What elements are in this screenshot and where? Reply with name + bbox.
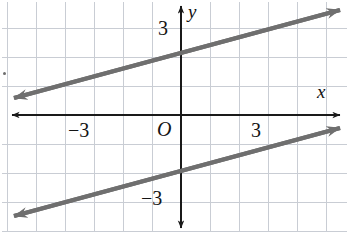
grid-lines <box>2 2 347 232</box>
y-tick-label-3: 3 <box>158 18 168 38</box>
x-tick-label-neg3: −3 <box>68 120 89 140</box>
x-tick-label-3: 3 <box>251 120 261 140</box>
coordinate-plane-svg <box>0 0 349 234</box>
line-upper <box>14 10 340 98</box>
line-lower <box>14 128 340 216</box>
origin-label: O <box>157 119 171 139</box>
margin-dot-mark <box>3 72 6 75</box>
y-axis-label: y <box>188 2 196 21</box>
graph-figure: x y 3 −3 −3 3 O <box>0 0 349 234</box>
y-tick-label-neg3: −3 <box>141 188 162 208</box>
x-axis-label: x <box>317 82 325 101</box>
